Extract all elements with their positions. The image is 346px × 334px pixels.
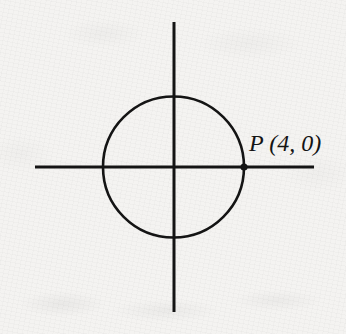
point-p-marker	[240, 163, 247, 170]
figure-canvas	[0, 0, 346, 334]
point-p-label: P (4, 0)	[249, 131, 321, 155]
circle-coordinate-figure: P (4, 0)	[0, 0, 346, 334]
